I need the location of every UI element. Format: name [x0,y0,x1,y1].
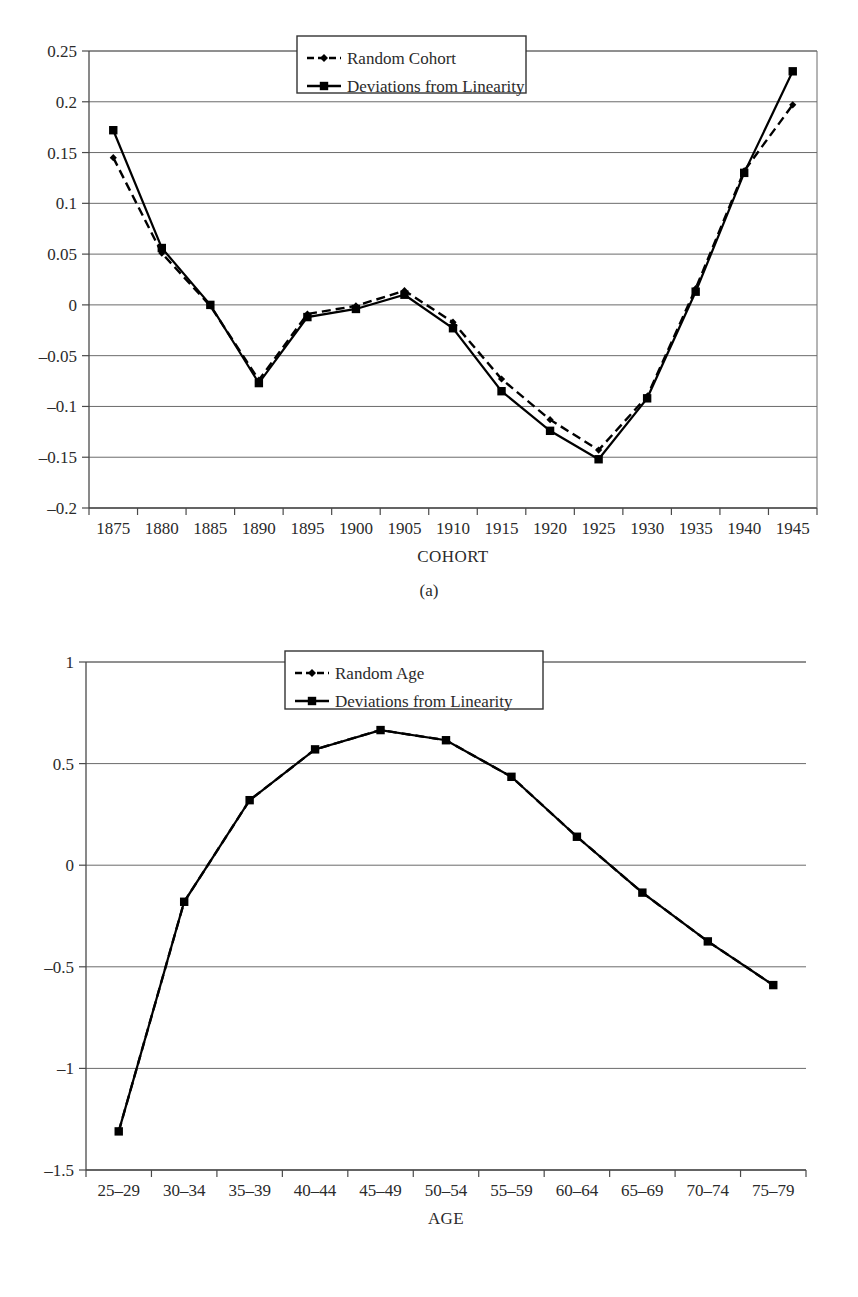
y-axis-tick-label: 0.2 [56,93,77,112]
y-axis-tick-label: –0.1 [46,397,77,416]
y-axis-tick-label: 1 [66,653,75,672]
x-axis-tick-label: 70–74 [687,1181,730,1200]
figure-a: 0.250.20.150.10.050–0.05–0.1–0.15–0.2187… [0,0,858,628]
figure-a-caption: (a) [0,581,858,601]
legend-label-1: Deviations from Linearity [347,77,525,96]
data-point-square [255,379,263,387]
data-point-square [376,726,384,734]
x-axis-tick-label: 1945 [776,519,810,538]
x-axis-tick-label: 1920 [533,519,567,538]
data-point-square [769,981,777,989]
chart-a-svg: 0.250.20.150.10.050–0.05–0.1–0.15–0.2187… [0,0,858,578]
series-line-diamond [119,730,774,1131]
data-point-square [245,796,253,804]
data-point-square [573,833,581,841]
y-axis-tick-label: 0.15 [47,144,77,163]
legend-marker-square [308,697,316,705]
y-axis-tick-label: 0.5 [53,755,74,774]
x-axis-title: AGE [428,1209,464,1228]
x-axis-tick-label: 1895 [290,519,324,538]
data-point-square [638,888,646,896]
data-point-square [691,287,699,295]
chart-b-plot-area: 10.50–0.5–1–1.525–2930–3435–3940–4445–49… [0,610,858,1230]
x-axis-tick-label: 50–54 [425,1181,468,1200]
x-axis-tick-label: 35–39 [228,1181,271,1200]
y-axis-tick-label: –0.2 [46,499,77,518]
series-line-diamond [113,105,792,450]
x-axis-tick-label: 1890 [242,519,276,538]
data-point-square [158,244,166,252]
x-axis-tick-label: 1930 [630,519,664,538]
legend-label-0: Random Age [335,664,424,683]
data-point-square [400,291,408,299]
x-axis-tick-label: 75–79 [752,1181,795,1200]
y-axis-tick-label: –0.15 [38,448,77,467]
x-axis-tick-label: 65–69 [621,1181,664,1200]
x-axis-tick-label: 1915 [485,519,519,538]
legend-marker-square [320,82,328,90]
legend-label-0: Random Cohort [347,49,456,68]
x-axis-tick-label: 1935 [679,519,713,538]
y-axis-tick-label: –0.5 [43,958,74,977]
data-point-square [546,427,554,435]
y-axis-tick-label: 0.1 [56,194,77,213]
x-axis-tick-label: 1940 [727,519,761,538]
x-axis-tick-label: 40–44 [294,1181,337,1200]
data-point-square [740,169,748,177]
chart-a-plot-area: 0.250.20.150.10.050–0.05–0.1–0.15–0.2187… [0,0,858,578]
x-axis-tick-label: 55–59 [490,1181,533,1200]
data-point-square [180,898,188,906]
x-axis-tick-label: 1925 [582,519,616,538]
x-axis-tick-label: 60–64 [556,1181,599,1200]
figure-b: 10.50–0.5–1–1.525–2930–3435–3940–4445–49… [0,610,858,1297]
x-axis-tick-label: 30–34 [163,1181,206,1200]
x-axis-tick-label: 45–49 [359,1181,402,1200]
data-point-square [643,394,651,402]
data-point-square [115,1127,123,1135]
data-point-square [789,67,797,75]
chart-b-svg: 10.50–0.5–1–1.525–2930–3435–3940–4445–49… [0,610,858,1230]
series-line-square [113,71,792,459]
y-axis-tick-label: 0.25 [47,42,77,61]
data-point-square [449,324,457,332]
data-point-square [109,126,117,134]
x-axis-tick-label: 1905 [387,519,421,538]
y-axis-tick-label: –1.5 [43,1161,74,1180]
x-axis-tick-label: 1910 [436,519,470,538]
data-point-square [507,773,515,781]
x-axis-tick-label: 1885 [193,519,227,538]
data-point-square [594,455,602,463]
x-axis-tick-label: 1900 [339,519,373,538]
x-axis-tick-label: 1875 [96,519,130,538]
data-point-square [704,937,712,945]
data-point-square [497,387,505,395]
y-axis-tick-label: –1 [56,1059,74,1078]
data-point-square [352,305,360,313]
y-axis-tick-label: 0.05 [47,245,77,264]
x-axis-tick-label: 25–29 [97,1181,140,1200]
data-point-square [303,313,311,321]
data-point-square [206,301,214,309]
y-axis-tick-label: 0 [69,296,78,315]
series-line-square [119,730,774,1131]
data-point-square [311,745,319,753]
y-axis-tick-label: –0.05 [38,347,77,366]
legend-label-1: Deviations from Linearity [335,692,513,711]
x-axis-tick-label: 1880 [145,519,179,538]
data-point-square [442,736,450,744]
y-axis-tick-label: 0 [66,856,75,875]
x-axis-title: COHORT [417,547,488,566]
